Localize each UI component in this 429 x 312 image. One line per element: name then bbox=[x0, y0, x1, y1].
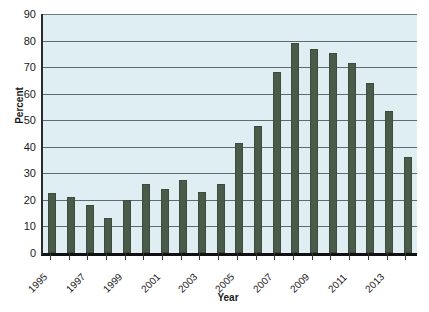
bar-1996 bbox=[67, 197, 75, 253]
bar-2010 bbox=[329, 53, 337, 253]
y-axis-tick-labels: 0102030405060708090 bbox=[0, 0, 41, 312]
bar-2011 bbox=[348, 63, 356, 253]
bar-slot bbox=[193, 14, 212, 253]
bar-2005 bbox=[235, 143, 243, 253]
y-tick-label-20: 20 bbox=[24, 194, 36, 206]
bar-slot bbox=[361, 14, 380, 253]
bar-slot bbox=[305, 14, 324, 253]
bar-2009 bbox=[310, 49, 318, 253]
y-tick-label-10: 10 bbox=[24, 220, 36, 232]
y-tick-label-0: 0 bbox=[30, 247, 36, 259]
y-tick-label-50: 50 bbox=[24, 114, 36, 126]
bar-slot bbox=[174, 14, 193, 253]
y-tick-label-30: 30 bbox=[24, 167, 36, 179]
y-tick-label-70: 70 bbox=[24, 61, 36, 73]
plot-area bbox=[41, 14, 417, 256]
y-tick-label-80: 80 bbox=[24, 35, 36, 47]
bar-1997 bbox=[86, 205, 94, 253]
bar-2013 bbox=[385, 111, 393, 253]
bar-slot bbox=[137, 14, 156, 253]
bar-slot bbox=[324, 14, 343, 253]
bar-slot bbox=[43, 14, 62, 253]
bar-slot bbox=[230, 14, 249, 253]
bar-slot bbox=[398, 14, 417, 253]
y-tick-label-40: 40 bbox=[24, 141, 36, 153]
y-tick-label-90: 90 bbox=[24, 8, 36, 20]
bar-2007 bbox=[273, 72, 281, 253]
bar-1998 bbox=[104, 218, 112, 253]
bar-slot bbox=[286, 14, 305, 253]
bar-slot bbox=[342, 14, 361, 253]
bar-2003 bbox=[198, 192, 206, 253]
bar-2000 bbox=[142, 184, 150, 253]
bar-slot bbox=[99, 14, 118, 253]
bar-2002 bbox=[179, 180, 187, 253]
bar-chart: Percent 0102030405060708090 199519971999… bbox=[0, 0, 429, 312]
bar-2001 bbox=[161, 189, 169, 253]
bar-slot bbox=[62, 14, 81, 253]
bar-2004 bbox=[217, 184, 225, 253]
bar-2006 bbox=[254, 126, 262, 253]
bar-1995 bbox=[48, 193, 56, 253]
bar-2012 bbox=[366, 83, 374, 253]
bar-1999 bbox=[123, 200, 131, 253]
y-tick-label-60: 60 bbox=[24, 88, 36, 100]
bar-slot bbox=[118, 14, 137, 253]
bar-series bbox=[43, 14, 417, 253]
bar-slot bbox=[211, 14, 230, 253]
bar-2014 bbox=[404, 157, 412, 253]
bar-slot bbox=[155, 14, 174, 253]
bar-2008 bbox=[291, 43, 299, 253]
x-axis-title: Year bbox=[41, 292, 415, 303]
bar-slot bbox=[267, 14, 286, 253]
bar-slot bbox=[80, 14, 99, 253]
bar-slot bbox=[380, 14, 399, 253]
bar-slot bbox=[249, 14, 268, 253]
